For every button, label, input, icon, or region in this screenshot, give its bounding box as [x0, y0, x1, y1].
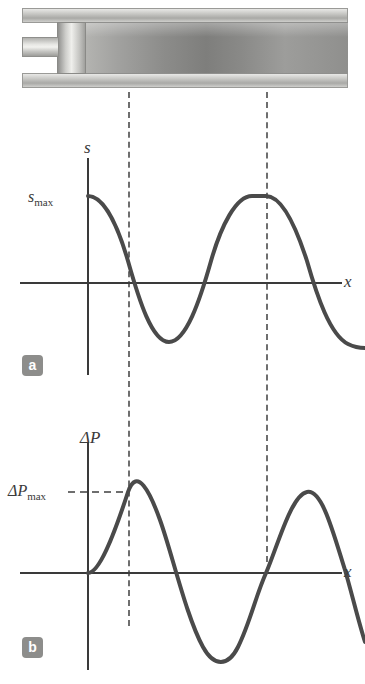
piston-rod	[22, 37, 59, 57]
piston-head	[57, 22, 86, 74]
tube-wall-bottom	[22, 73, 348, 88]
piston-tube-apparatus	[22, 8, 348, 88]
s-max-label: smax	[28, 188, 53, 208]
pressure-plot	[0, 420, 365, 684]
tube-wall-top	[22, 8, 348, 23]
s-max-subscript: max	[34, 196, 53, 208]
panel-badge-b: b	[22, 637, 43, 658]
displacement-graph-panel	[0, 130, 365, 390]
pressure-curve	[88, 481, 365, 662]
sound-wave-figure: s x smax a ΔP x ΔPmax b	[0, 0, 365, 684]
delta-p-max-symbol: ΔP	[8, 482, 27, 499]
gas-column	[85, 22, 348, 74]
x-axis-label-displacement: x	[344, 272, 352, 292]
pressure-graph-panel	[0, 420, 365, 684]
y-axis-label-pressure: ΔP	[80, 428, 100, 448]
panel-badge-a: a	[22, 355, 43, 376]
x-axis-label-pressure: x	[344, 562, 352, 582]
y-axis-label-displacement: s	[84, 138, 91, 158]
displacement-curve	[88, 196, 365, 348]
delta-p-max-subscript: max	[27, 490, 46, 502]
delta-p-max-label: ΔPmax	[8, 482, 46, 502]
displacement-plot	[0, 130, 365, 390]
